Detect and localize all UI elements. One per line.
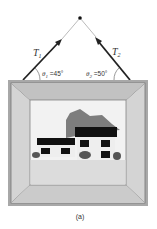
diagram-canvas: T1 T2 θ1 =45° θ2 =50° xyxy=(0,0,157,229)
tension-label-left: T1 xyxy=(33,47,42,59)
angle-arc-left xyxy=(35,68,40,80)
rope-right-upper xyxy=(80,18,96,37)
angle-label-left: θ1 =45° xyxy=(42,70,64,79)
tension-label-right: T2 xyxy=(112,46,121,58)
figure-caption: (a) xyxy=(76,213,85,221)
angle-label-right: θ2 =50° xyxy=(86,70,108,79)
nail-point xyxy=(78,16,82,20)
angle-arc-right xyxy=(114,68,119,80)
rope-left-upper xyxy=(62,18,80,39)
